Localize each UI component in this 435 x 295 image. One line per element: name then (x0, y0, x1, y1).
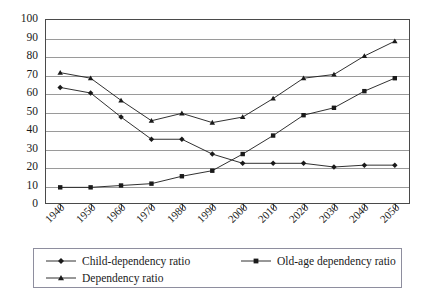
x-tick-label-2000: 2000 (226, 202, 249, 225)
chart-legend: Child-dependency ratioOld-age dependency… (33, 248, 402, 288)
square-marker-icon (239, 255, 273, 267)
diamond-marker-icon (44, 255, 78, 267)
legend-label: Old-age dependency ratio (277, 255, 396, 267)
legend-label: Dependency ratio (82, 272, 163, 284)
x-tick-label-1950: 1950 (74, 202, 97, 225)
x-tick-label-2020: 2020 (287, 202, 310, 225)
x-tick-label-2050: 2050 (378, 202, 401, 225)
x-tick-label-1940: 1940 (43, 202, 66, 225)
x-tick-label-1970: 1970 (135, 202, 158, 225)
x-tick-label-1960: 1960 (104, 202, 127, 225)
x-tick-label-1980: 1980 (165, 202, 188, 225)
legend-label: Child-dependency ratio (82, 255, 190, 267)
triangle-marker-icon (44, 272, 78, 284)
x-tick-label-2030: 2030 (317, 202, 340, 225)
chart-container: 0102030405060708090100 19401950196019701… (0, 0, 435, 295)
x-tick-label-2040: 2040 (348, 202, 371, 225)
x-tick-label-2010: 2010 (256, 202, 279, 225)
x-tick-label-1990: 1990 (196, 202, 219, 225)
